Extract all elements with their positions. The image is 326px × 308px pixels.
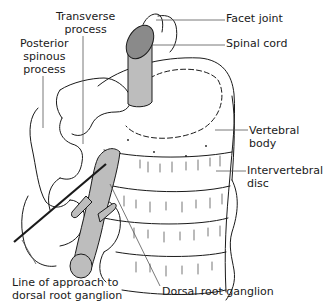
label-transverse-process: Transverse process bbox=[56, 10, 115, 36]
label-vertebral-body: Vertebral body bbox=[249, 124, 299, 150]
transverse-process-shape bbox=[60, 78, 130, 136]
label-intervertebral-disc: Intervertebral disc bbox=[247, 164, 323, 190]
leader-dorsal-root-ganglion bbox=[110, 184, 160, 286]
spinal-cord-shape bbox=[121, 20, 160, 106]
label-facet-joint: Facet joint bbox=[226, 12, 283, 25]
label-dorsal-root-ganglion: Dorsal root ganglion bbox=[162, 285, 274, 298]
leader-line-of-approach bbox=[22, 240, 36, 264]
label-posterior-spinous-process: Posterior spinous process bbox=[20, 37, 69, 76]
spine-anatomy-diagram: Transverse process Posterior spinous pro… bbox=[0, 0, 326, 308]
dorsal-root-ganglion-shape bbox=[70, 149, 120, 278]
label-line-of-approach: Line of approach to dorsal root ganglion bbox=[12, 276, 122, 302]
posterior-spinous-process-shape bbox=[30, 108, 70, 207]
label-spinal-cord: Spinal cord bbox=[226, 37, 287, 50]
